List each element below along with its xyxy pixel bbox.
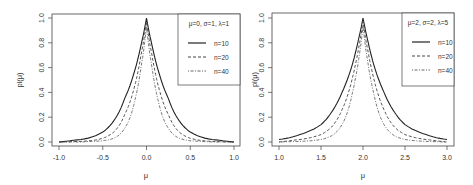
x-tick-label: 1.0	[229, 154, 239, 161]
legend-entry: n=10	[214, 40, 229, 47]
x-tick-label: 2.0	[358, 154, 368, 161]
y-tick-label: 1.0	[38, 13, 45, 23]
chart-canvas: -1.0-0.50.00.51.00.00.20.40.60.81.0μpl(μ…	[0, 0, 473, 185]
legend: μ=0, σ=1, λ=1n=10n=20n=40	[178, 14, 240, 85]
legend-title: μ=0, σ=1, λ=1	[189, 20, 230, 28]
x-tick-label: 1.5	[316, 154, 326, 161]
legend-title: μ=2, σ=2, λ=5	[408, 19, 449, 27]
legend-entry: n=20	[438, 53, 453, 60]
x-tick-label: 3.0	[442, 154, 452, 161]
y-tick-label: 0.6	[38, 63, 45, 73]
y-axis-label: pl(μ)	[15, 72, 24, 88]
x-tick-label: -1.0	[53, 154, 65, 161]
y-tick-label: 0.6	[258, 63, 265, 73]
legend: μ=2, σ=2, λ=5n=10n=20n=40	[402, 13, 454, 86]
y-tick-label: 0.0	[258, 137, 265, 147]
x-tick-label: 0.0	[142, 154, 152, 161]
y-tick-label: 0.2	[258, 112, 265, 122]
y-tick-label: 1.0	[258, 13, 265, 23]
y-axis-label: pl(μ)	[250, 71, 259, 87]
y-tick-label: 0.8	[38, 38, 45, 48]
plot-panel-2: 1.01.52.02.53.00.00.20.40.60.81.0μpl(μ)μ…	[250, 13, 454, 180]
legend-entry: n=10	[438, 39, 453, 46]
x-tick-label: 1.0	[274, 154, 284, 161]
legend-entry: n=40	[214, 68, 229, 75]
y-tick-label: 0.8	[258, 38, 265, 48]
y-tick-label: 0.4	[38, 87, 45, 97]
y-tick-label: 0.2	[38, 112, 45, 122]
y-tick-label: 0.0	[38, 137, 45, 147]
legend-entry: n=40	[438, 67, 453, 74]
plot-panel-1: -1.0-0.50.00.51.00.00.20.40.60.81.0μpl(μ…	[15, 13, 240, 180]
x-axis-label: μ	[361, 171, 365, 180]
legend-entry: n=20	[214, 54, 229, 61]
x-tick-label: 0.5	[185, 154, 195, 161]
x-tick-label: 2.5	[400, 154, 410, 161]
y-tick-label: 0.4	[258, 87, 265, 97]
x-axis-label: μ	[144, 171, 148, 180]
x-tick-label: -0.5	[97, 154, 109, 161]
